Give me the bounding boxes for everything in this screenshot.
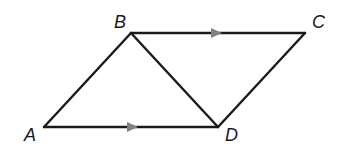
parallelogram-diagram: A B C D (0, 0, 343, 150)
segments (44, 33, 305, 127)
vertex-label-a: A (23, 125, 36, 145)
segment-cd (218, 33, 305, 127)
vertex-label-b: B (114, 12, 126, 32)
vertex-label-d: D (225, 125, 238, 145)
parallel-arrow-icon-bc (211, 28, 222, 38)
diagonal-bd (131, 33, 218, 127)
segment-ab (44, 33, 131, 127)
vertex-label-c: C (312, 12, 326, 32)
parallel-arrow-icon-ad (127, 122, 138, 132)
